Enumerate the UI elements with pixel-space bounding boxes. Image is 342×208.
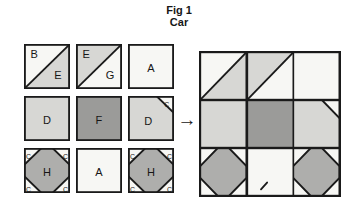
block-cell-plain (293, 52, 340, 100)
piece-tile-plain: F (76, 96, 122, 141)
piece-tile-corner_tr: DC (128, 96, 174, 141)
block-cell-diamond (200, 148, 247, 196)
piece-tile-plain: A (76, 148, 122, 193)
piece-tile-diamond: HCCCC (128, 148, 174, 193)
block-cell-corner_tr (293, 100, 340, 148)
svg-text:C: C (26, 153, 31, 160)
svg-text:C: C (164, 101, 169, 108)
block-cell-plain (247, 148, 294, 196)
piece-tile-hst: EG (76, 44, 122, 89)
block-cell-hst (247, 52, 294, 100)
svg-text:H: H (43, 166, 51, 178)
svg-text:C: C (167, 153, 172, 160)
piece-tile-plain: D (24, 96, 70, 141)
source-pieces-grid: BEEGADFDCHCCCCAHCCCC (24, 44, 174, 193)
piece-tile-diamond: HCCCC (24, 148, 70, 193)
figure-title-block: Fig 1 Car (16, 4, 342, 28)
svg-text:C: C (63, 153, 68, 160)
svg-text:E: E (54, 69, 61, 81)
figure-name: Car (16, 16, 342, 28)
svg-text:E: E (82, 49, 89, 61)
block-cell-diamond (293, 148, 340, 196)
svg-text:A: A (147, 62, 155, 74)
assembly-arrow-icon: → (175, 110, 199, 130)
svg-text:G: G (106, 69, 115, 81)
svg-text:H: H (147, 166, 155, 178)
block-cell-plain (200, 100, 247, 148)
block-cell-plain (247, 100, 294, 148)
svg-text:F: F (96, 114, 103, 126)
block-cell-hst (200, 52, 247, 100)
piece-tile-hst: BE (24, 44, 70, 89)
figure-number: Fig 1 (16, 4, 342, 16)
svg-text:D: D (144, 115, 152, 127)
svg-text:D: D (43, 114, 51, 126)
svg-text:B: B (30, 49, 37, 61)
figure-canvas: Fig 1 Car BEEGADFDCHCCCCAHCCCC → (0, 0, 342, 208)
svg-text:C: C (130, 153, 135, 160)
assembled-block (199, 51, 341, 197)
svg-text:A: A (95, 166, 103, 178)
piece-tile-plain: A (128, 44, 174, 89)
